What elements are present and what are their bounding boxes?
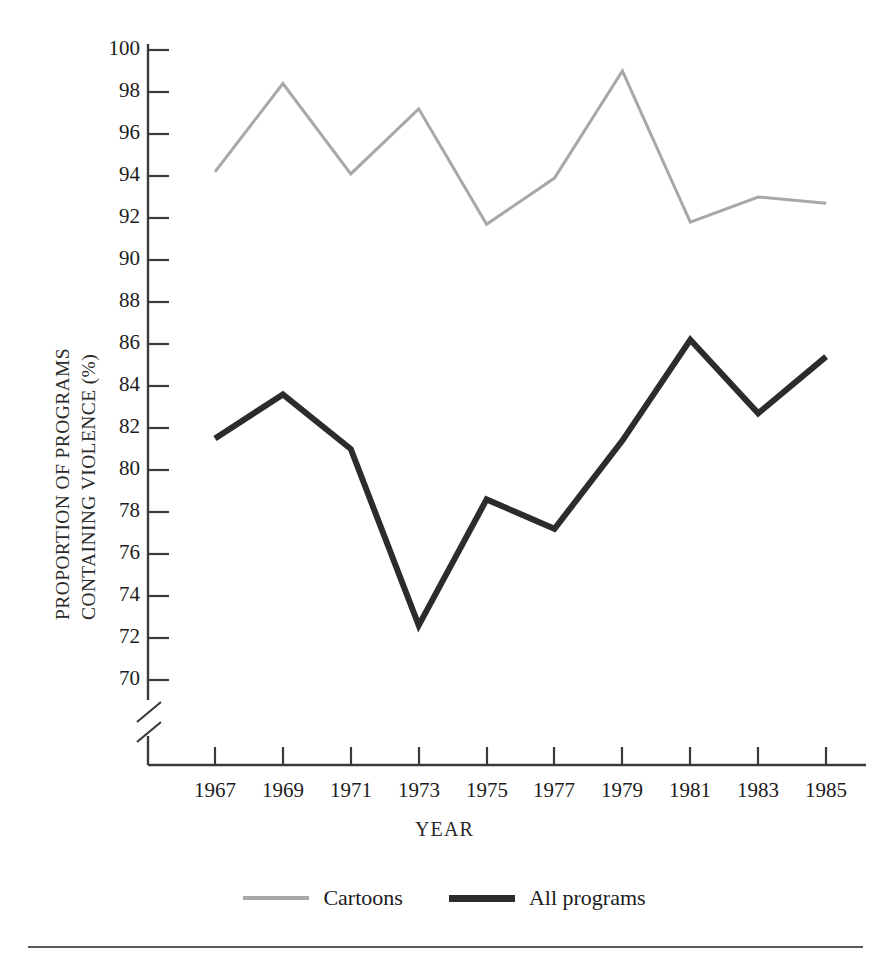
legend-swatch-all-programs-icon bbox=[449, 895, 515, 902]
y-tick-label-92: 92 bbox=[84, 206, 140, 227]
y-tick-label-90: 90 bbox=[84, 248, 140, 269]
y-tick-label-84: 84 bbox=[84, 374, 140, 395]
legend-item-all-programs: All programs bbox=[449, 885, 646, 911]
legend-item-cartoons: Cartoons bbox=[243, 885, 402, 911]
series-line-cartoons bbox=[215, 71, 826, 224]
axis-break-slash-lower bbox=[137, 722, 161, 742]
y-tick-label-72: 72 bbox=[84, 626, 140, 647]
y-tick-label-94: 94 bbox=[84, 164, 140, 185]
y-tick-label-80: 80 bbox=[84, 458, 140, 479]
x-tick-label-1985: 1985 bbox=[786, 778, 866, 803]
y-tick-label-82: 82 bbox=[84, 416, 140, 437]
y-tick-label-78: 78 bbox=[84, 500, 140, 521]
y-tick-label-74: 74 bbox=[84, 584, 140, 605]
y-tick-label-88: 88 bbox=[84, 290, 140, 311]
y-axis-tick-labels: 100 98 96 94 92 90 88 86 84 82 80 78 76 … bbox=[84, 0, 140, 760]
x-axis-title: YEAR bbox=[0, 818, 889, 841]
chart-figure: PROPORTION OF PROGRAMS CONTAINING VIOLEN… bbox=[0, 0, 889, 966]
legend-label-cartoons: Cartoons bbox=[323, 885, 402, 911]
y-tick-label-86: 86 bbox=[84, 332, 140, 353]
y-axis-ticks bbox=[148, 50, 169, 680]
series-line-all-programs bbox=[215, 340, 826, 626]
y-tick-label-98: 98 bbox=[84, 80, 140, 101]
chart-legend: Cartoons All programs bbox=[0, 878, 889, 918]
axis-break-slash-upper bbox=[137, 702, 161, 722]
y-tick-label-100: 100 bbox=[84, 38, 140, 59]
y-tick-label-70: 70 bbox=[84, 668, 140, 689]
legend-swatch-cartoons-icon bbox=[243, 896, 309, 900]
legend-label-all-programs: All programs bbox=[529, 885, 646, 911]
x-axis-ticks bbox=[215, 747, 826, 765]
y-tick-label-76: 76 bbox=[84, 542, 140, 563]
y-axis-title-line-1: PROPORTION OF PROGRAMS bbox=[52, 348, 74, 620]
y-tick-label-96: 96 bbox=[84, 122, 140, 143]
y-axis-title: PROPORTION OF PROGRAMS CONTAINING VIOLEN… bbox=[0, 0, 90, 760]
x-axis-tick-labels: 1967 1969 1971 1973 1975 1977 1979 1981 … bbox=[0, 778, 889, 818]
bottom-divider bbox=[28, 946, 863, 948]
